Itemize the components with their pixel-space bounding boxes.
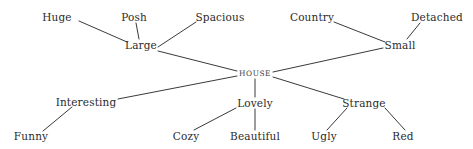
node-lovely[interactable]: Lovely xyxy=(237,98,273,109)
edge-country-small xyxy=(334,22,385,42)
edge-posh-large xyxy=(136,23,139,39)
semantic-network-diagram: HugePoshSpaciousCountryDetachedLargeSmal… xyxy=(0,0,473,149)
node-ugly[interactable]: Ugly xyxy=(311,131,336,142)
node-red[interactable]: Red xyxy=(392,131,413,142)
edge-house-strange xyxy=(273,77,344,99)
node-cozy[interactable]: Cozy xyxy=(173,131,199,142)
edge-strange-ugly xyxy=(327,108,347,130)
node-small[interactable]: Small xyxy=(385,40,416,51)
node-beautiful[interactable]: Beautiful xyxy=(230,131,280,142)
edge-large-spacious xyxy=(158,22,196,47)
node-funny[interactable]: Funny xyxy=(14,131,48,142)
node-interesting[interactable]: Interesting xyxy=(56,97,117,108)
node-house[interactable]: HOUSE xyxy=(239,68,271,79)
edge-house-small xyxy=(273,48,383,72)
node-spacious[interactable]: Spacious xyxy=(195,12,244,23)
node-posh[interactable]: Posh xyxy=(121,12,147,23)
edge-large-house xyxy=(158,51,237,71)
node-large[interactable]: Large xyxy=(125,40,157,51)
edge-interesting-funny xyxy=(43,107,72,131)
edge-house-interesting xyxy=(118,76,237,99)
node-country[interactable]: Country xyxy=(290,12,334,23)
node-huge[interactable]: Huge xyxy=(42,12,71,23)
edge-strange-red xyxy=(385,108,405,130)
edge-huge-large xyxy=(79,21,127,42)
node-detached[interactable]: Detached xyxy=(411,12,463,23)
edge-detached-small xyxy=(407,23,420,39)
edge-cozy-lovely xyxy=(194,108,236,130)
node-strange[interactable]: Strange xyxy=(342,98,385,109)
